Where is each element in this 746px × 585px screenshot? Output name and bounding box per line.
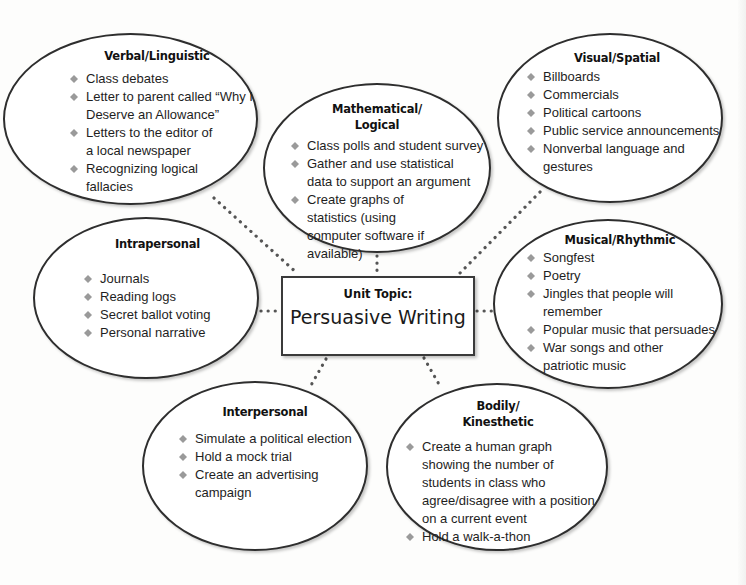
diamond-bullet-icon (527, 109, 535, 117)
diamond-bullet-icon (70, 75, 78, 83)
diamond-bullet-icon (527, 73, 535, 81)
item-list: Class debates Letter to parent called “W… (66, 70, 256, 196)
list-item: Journals (80, 270, 250, 288)
list-item: Reading logs (80, 288, 250, 306)
node-math-content: Mathematical/ Logical Class polls and st… (287, 101, 487, 263)
list-item: Create graphs of statistics (using compu… (287, 191, 487, 263)
list-item: Jingles that people will remember (523, 285, 723, 321)
item-list: Songfest Poetry Jingles that people will… (523, 249, 723, 375)
item-list: Create a human graph showing the number … (402, 438, 602, 546)
list-item: Political cartoons (523, 104, 723, 122)
node-title: Visual/Spatial (511, 50, 723, 66)
diamond-bullet-icon (84, 329, 92, 337)
node-title: Interpersonal (165, 404, 365, 420)
diamond-bullet-icon (291, 196, 299, 204)
diamond-bullet-icon (291, 142, 299, 150)
diamond-bullet-icon (84, 293, 92, 301)
topic-title: Persuasive Writing (283, 306, 473, 328)
diamond-bullet-icon (179, 435, 187, 443)
diamond-bullet-icon (527, 91, 535, 99)
node-verbal-content: Verbal/Linguistic Class debates Letter t… (66, 48, 256, 196)
node-title: Verbal/Linguistic (58, 48, 256, 64)
list-item: Popular music that persuades (523, 321, 723, 339)
list-item: War songs and other patriotic music (523, 339, 723, 375)
diamond-bullet-icon (406, 443, 414, 451)
list-item: Songfest (523, 249, 723, 267)
diamond-bullet-icon (527, 145, 535, 153)
diamond-bullet-icon (179, 453, 187, 461)
item-list: Class polls and student survey Gather an… (287, 137, 487, 263)
connector-interpersonal (310, 359, 326, 387)
diamond-bullet-icon (527, 344, 535, 352)
diamond-bullet-icon (70, 93, 78, 101)
list-item: Letters to the editor of a local newspap… (66, 124, 256, 160)
diamond-bullet-icon (527, 272, 535, 280)
diamond-bullet-icon (527, 127, 535, 135)
list-item: Create a human graph showing the number … (402, 438, 602, 528)
list-item: Commercials (523, 86, 723, 104)
list-item: Personal narrative (80, 324, 250, 342)
list-item: Poetry (523, 267, 723, 285)
list-item: Secret ballot voting (80, 306, 250, 324)
diamond-bullet-icon (527, 326, 535, 334)
node-musical-content: Musical/Rhythmic Songfest Poetry Jingles… (523, 232, 723, 375)
diamond-bullet-icon (84, 275, 92, 283)
item-list: Simulate a political election Hold a moc… (175, 430, 365, 502)
list-item: Class polls and student survey (287, 137, 487, 155)
list-item: Public service announcements (523, 122, 723, 140)
list-item: Hold a mock trial (175, 448, 365, 466)
diamond-bullet-icon (84, 311, 92, 319)
node-title: Musical/Rhythmic (517, 232, 723, 248)
list-item: Create an advertising campaign (175, 466, 365, 502)
node-title: Intrapersonal (65, 236, 250, 252)
item-list: Billboards Commercials Political cartoon… (523, 68, 723, 176)
list-item: Hold a walk-a-thon (402, 528, 602, 546)
list-item: Letter to parent called “Why I Deserve a… (66, 88, 256, 124)
central-topic-box: Unit Topic: Persuasive Writing (281, 276, 475, 356)
node-bodily-content: Bodily/ Kinesthetic Create a human graph… (402, 398, 602, 546)
diamond-bullet-icon (70, 165, 78, 173)
topic-label: Unit Topic: (283, 287, 473, 301)
connector-bodily (424, 358, 440, 386)
node-intrapersonal-content: Intrapersonal Journals Reading logs Secr… (80, 236, 250, 342)
list-item: Nonverbal language and gestures (523, 140, 723, 176)
diamond-bullet-icon (406, 533, 414, 541)
list-item: Simulate a political election (175, 430, 365, 448)
node-visual-content: Visual/Spatial Billboards Commercials Po… (523, 50, 723, 176)
list-item: Class debates (66, 70, 256, 88)
node-interpersonal-content: Interpersonal Simulate a political elect… (175, 404, 365, 502)
node-title: Mathematical/ Logical (327, 101, 427, 133)
diamond-bullet-icon (70, 129, 78, 137)
node-title: Bodily/ Kinesthetic (448, 398, 548, 430)
diamond-bullet-icon (527, 254, 535, 262)
diamond-bullet-icon (527, 290, 535, 298)
list-item: Billboards (523, 68, 723, 86)
diamond-bullet-icon (291, 160, 299, 168)
item-list: Journals Reading logs Secret ballot voti… (80, 270, 250, 342)
diamond-bullet-icon (179, 471, 187, 479)
list-item: Gather and use statistical data to suppo… (287, 155, 487, 191)
list-item: Recognizing logical fallacies (66, 160, 256, 196)
